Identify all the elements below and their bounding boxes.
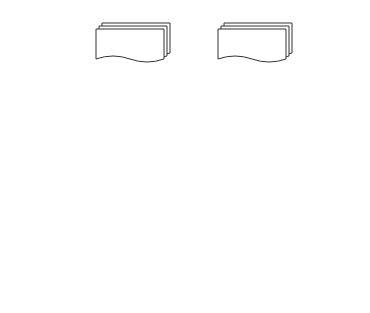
labeled-data-node bbox=[218, 23, 292, 62]
unlabeled-data-node bbox=[96, 23, 170, 62]
diagram-canvas bbox=[0, 0, 370, 313]
